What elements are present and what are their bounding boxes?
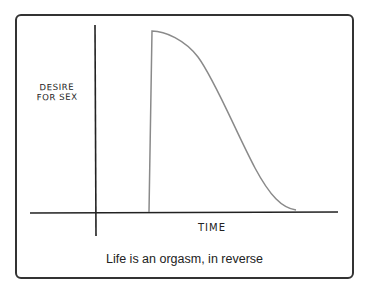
chart-caption: Life is an orgasm, in reverse [15,252,354,266]
chart-plot [0,0,368,295]
y-axis [95,25,96,236]
y-axis-label: DESIRE FOR SEX [28,81,86,102]
x-axis-label: TIME [190,222,234,233]
y-axis-label-line2: FOR SEX [28,91,86,102]
x-axis [30,212,338,213]
desire-curve [149,31,296,212]
